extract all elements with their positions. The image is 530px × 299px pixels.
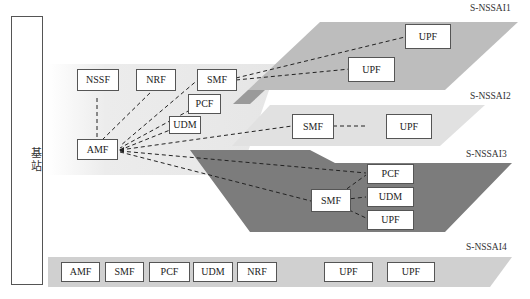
slice-plane-2 (232, 105, 485, 146)
nf-nrf-slice4[interactable]: NRF (237, 262, 277, 282)
nf-upf-slice3[interactable]: UPF (367, 210, 414, 230)
base-station-label: 基站 (11, 147, 43, 173)
nf-pcf-slice4[interactable]: PCF (149, 262, 190, 282)
slice-label-2: S-NSSAI2 (470, 91, 511, 101)
nf-nssf[interactable]: NSSF (77, 69, 119, 91)
nf-amf-shared[interactable]: AMF (77, 139, 118, 160)
nf-smf-slice2[interactable]: SMF (292, 114, 334, 139)
nf-udm-slice3[interactable]: UDM (367, 187, 414, 207)
slice-label-4: S-NSSAI4 (466, 242, 507, 252)
nf-upf-slice1-a[interactable]: UPF (405, 24, 451, 49)
nf-udm-slice4[interactable]: UDM (193, 262, 233, 282)
nf-pcf-shared[interactable]: PCF (188, 94, 221, 114)
slice-plane-3 (190, 150, 512, 232)
nf-udm-shared[interactable]: UDM (169, 116, 201, 134)
nf-smf-slice3[interactable]: SMF (311, 189, 351, 212)
nf-upf-slice2[interactable]: UPF (386, 114, 432, 139)
nf-pcf-slice3[interactable]: PCF (367, 164, 414, 184)
nf-smf-slice4[interactable]: SMF (105, 262, 144, 282)
nf-upf-slice1-b[interactable]: UPF (348, 57, 395, 82)
network-slicing-diagram: 基站 NSSF NRF SMF PCF UDM AMF S-NSSAI1 UPF… (0, 0, 530, 299)
nf-nrf[interactable]: NRF (136, 69, 176, 91)
nf-upf-slice4-b[interactable]: UPF (387, 262, 435, 282)
nf-amf-slice4[interactable]: AMF (61, 262, 100, 282)
nf-smf-shared[interactable]: SMF (197, 69, 237, 91)
slice-label-3: S-NSSAI3 (466, 149, 507, 159)
slice-label-1: S-NSSAI1 (470, 3, 511, 13)
nf-upf-slice4-a[interactable]: UPF (324, 262, 373, 282)
